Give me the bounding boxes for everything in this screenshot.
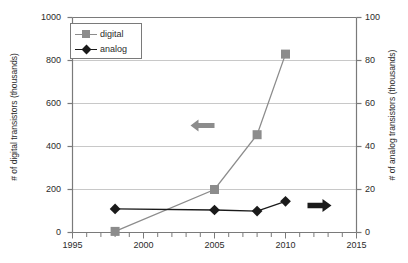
series-analog-point-2005 [209,205,220,216]
series-analog-point-2010 [280,196,291,207]
chart-plot-area [0,0,408,263]
y-axis-title-left: # of digital transistors (thousands) [9,37,19,197]
ytick-right-label-0: 0 [365,227,399,237]
chart-legend: digital analog [70,23,142,59]
chart-container: 1000 800 600 400 200 0 100 80 60 40 20 0… [0,0,408,263]
series-digital [111,50,290,236]
series-analog-point-1998 [110,204,121,215]
series-analog [110,196,291,217]
ytick-label-800: 800 [27,55,61,65]
right-axis-ticks [357,18,362,233]
ytick-label-1000: 1000 [27,12,61,22]
legend-analog-swatch-icon [75,44,97,54]
series-digital-point-2005 [210,185,219,194]
xtick-label-2005: 2005 [195,240,235,250]
legend-digital-swatch-icon [75,29,97,39]
xtick-label-1995: 1995 [53,240,93,250]
series-digital-point-2008 [253,130,262,139]
digital-axis-arrow-icon [191,120,215,132]
series-digital-point-2010 [281,50,290,59]
ytick-right-label-100: 100 [365,12,399,22]
series-digital-line [115,54,285,231]
legend-label-analog: analog [100,44,127,54]
xtick-label-2015: 2015 [337,240,377,250]
analog-axis-arrow-icon [308,199,332,212]
legend-item-digital: digital [75,27,124,41]
series-digital-point-1998 [111,227,120,236]
ytick-label-200: 200 [27,184,61,194]
y-axis-title-right: # of analog transistors (thousands) [387,35,397,195]
ytick-label-600: 600 [27,98,61,108]
xtick-label-2000: 2000 [124,240,164,250]
series-analog-point-2008 [252,206,263,217]
legend-item-analog: analog [75,42,127,56]
xtick-label-2010: 2010 [266,240,306,250]
legend-label-digital: digital [100,29,124,39]
ytick-label-400: 400 [27,141,61,151]
ytick-label-0: 0 [27,227,61,237]
